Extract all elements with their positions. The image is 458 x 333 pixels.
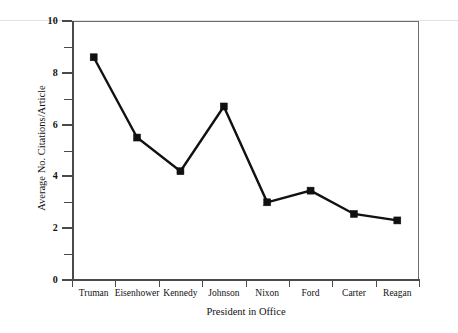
data-point-kennedy	[177, 168, 184, 175]
data-point-eisenhower	[134, 134, 141, 141]
chart-figure: 0246810 TrumanEisenhowerKennedyJohnsonNi…	[0, 0, 458, 333]
data-point-reagan	[394, 217, 401, 224]
data-point-johnson	[220, 103, 227, 110]
data-point-ford	[307, 187, 314, 194]
series-markers	[90, 54, 401, 224]
data-point-truman	[90, 54, 97, 61]
series-layer	[0, 0, 458, 333]
data-point-nixon	[264, 199, 271, 206]
data-point-carter	[350, 210, 357, 217]
